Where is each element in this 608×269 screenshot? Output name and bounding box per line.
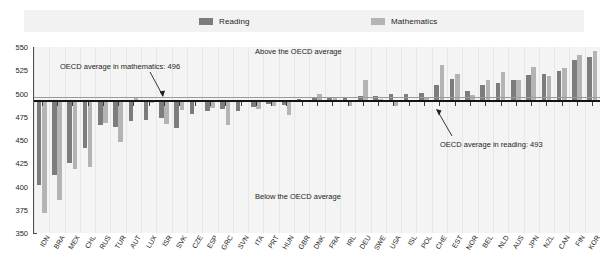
bar-cze-reading: [190, 100, 195, 114]
x-label-idn: IDN: [38, 234, 50, 248]
x-label-nor: NOR: [465, 234, 479, 251]
x-label-hun: HUN: [281, 234, 295, 251]
bar-jpn-mathematics: [531, 67, 536, 100]
bar-bra-mathematics: [57, 100, 62, 200]
gridline-vertical: [172, 47, 173, 233]
gridline-vertical: [294, 47, 295, 233]
y-tick-label-525: 525: [15, 66, 28, 75]
y-tick-label-425: 425: [15, 159, 28, 168]
x-tick-mark: [516, 102, 517, 106]
x-label-svk: SVK: [175, 234, 188, 250]
x-label-aus: AUS: [511, 234, 525, 250]
x-tick-mark: [363, 102, 364, 106]
annotation-math-average: OECD average in mathematics: 496: [60, 62, 180, 71]
x-tick-mark: [562, 102, 563, 106]
x-tick-mark: [409, 102, 410, 106]
gridline-vertical: [569, 47, 570, 233]
annotation-below-average: Below the OECD average: [255, 192, 341, 201]
bar-fin-reading: [572, 60, 577, 100]
chart-legend: Reading Mathematics: [24, 10, 584, 32]
bar-tur-mathematics: [118, 100, 123, 142]
gridline-vertical: [187, 47, 188, 233]
x-label-fra: FRA: [328, 234, 341, 250]
x-label-mex: MEX: [67, 234, 81, 251]
bar-tur-reading: [113, 100, 118, 127]
x-label-ita: ITA: [253, 234, 264, 247]
gridline-vertical: [371, 47, 372, 233]
x-label-kor: KOR: [587, 234, 601, 251]
x-label-deu: DEU: [358, 234, 372, 250]
x-tick-mark: [210, 102, 211, 106]
gridline-vertical: [585, 47, 586, 233]
x-label-swe: SWE: [373, 234, 387, 251]
x-tick-mark: [531, 102, 532, 106]
x-tick-mark: [103, 102, 104, 106]
annotation-reading-average: OECD average in reading: 493: [440, 140, 543, 149]
gridline-vertical: [156, 47, 157, 233]
legend-label-mathematics: Mathematics: [391, 17, 437, 26]
x-tick-mark: [470, 102, 471, 106]
x-label-svn: SVN: [236, 234, 250, 250]
x-tick-mark: [88, 102, 89, 106]
bar-chl-mathematics: [88, 100, 93, 167]
gridline-vertical: [34, 47, 35, 233]
chart-page: Reading Mathematics 35037540042545047550…: [0, 0, 608, 269]
bar-aut-reading: [129, 100, 134, 121]
bar-mex-reading: [67, 100, 72, 163]
x-tick-mark: [179, 102, 180, 106]
bar-kor-mathematics: [593, 51, 598, 100]
gridline-vertical: [110, 47, 111, 233]
y-axis: 350375400425450475500525550: [0, 47, 33, 233]
x-label-gbr: GBR: [297, 234, 311, 251]
gridline-vertical: [263, 47, 264, 233]
gridline-vertical: [202, 47, 203, 233]
legend-swatch-reading: [199, 18, 213, 25]
x-tick-mark: [378, 102, 379, 106]
bar-bra-reading: [52, 100, 57, 175]
x-tick-mark: [485, 102, 486, 106]
gridline-vertical: [233, 47, 234, 233]
gridline-vertical: [279, 47, 280, 233]
x-label-est: EST: [450, 234, 463, 249]
gridline-vertical: [432, 47, 433, 233]
x-label-isl: ISL: [406, 234, 418, 247]
gridline-vertical: [554, 47, 555, 233]
x-label-rus: RUS: [98, 234, 112, 250]
x-tick-mark: [133, 102, 134, 106]
x-tick-mark: [424, 102, 425, 106]
x-tick-mark: [393, 102, 394, 106]
x-label-nzl: NZL: [542, 234, 555, 249]
x-tick-mark: [149, 102, 150, 106]
gridline-vertical: [386, 47, 387, 233]
x-label-dnk: DNK: [312, 234, 326, 250]
y-tick-label-450: 450: [15, 136, 28, 145]
gridline-vertical: [248, 47, 249, 233]
bar-est-mathematics: [455, 74, 460, 100]
x-label-prt: PRT: [267, 234, 280, 249]
y-tick-label-500: 500: [15, 89, 28, 98]
gridline-vertical: [80, 47, 81, 233]
x-tick-mark: [195, 102, 196, 106]
x-tick-mark: [57, 102, 58, 106]
bar-kor-reading: [587, 57, 592, 100]
y-tick-label-350: 350: [15, 229, 28, 238]
gridline-vertical: [141, 47, 142, 233]
annotation-above-average: Above the OECD average: [255, 47, 342, 56]
gridline-vertical: [65, 47, 66, 233]
bar-svn-reading: [236, 100, 241, 111]
gridline-vertical: [340, 47, 341, 233]
x-label-che: CHE: [435, 234, 449, 250]
bar-nor-reading: [465, 91, 470, 100]
y-tick-label-375: 375: [15, 205, 28, 214]
x-label-can: CAN: [557, 234, 571, 250]
bar-grc-mathematics: [226, 100, 231, 125]
x-tick-mark: [72, 102, 73, 106]
bar-esp-reading: [205, 100, 210, 111]
x-label-chl: CHL: [83, 234, 96, 250]
x-tick-mark: [256, 102, 257, 106]
x-axis-labels: IDNBRAMEXCHLRUSTURAUTLUXISRSVKCZEESPGRCS…: [33, 234, 599, 269]
x-label-bel: BEL: [481, 234, 494, 249]
bar-mex-mathematics: [73, 100, 78, 169]
x-label-tur: TUR: [113, 234, 127, 250]
legend-item-mathematics: Mathematics: [371, 17, 437, 26]
